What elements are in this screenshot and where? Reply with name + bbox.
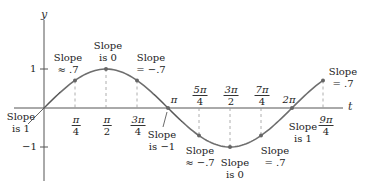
annotation-slope-at-pi: Slopeis −1: [148, 129, 176, 153]
x-tick-3pi-over-2: 3π 2: [224, 84, 239, 107]
x-tick-2pi: 2π: [283, 94, 296, 105]
annotation-slope-at-3pi-4: Slope= −.7: [136, 52, 165, 76]
x-tick-pi: π: [171, 94, 178, 105]
x-axis-label: t: [348, 100, 352, 113]
x-tick-pi-over-2: π 2: [103, 114, 112, 137]
x-tick-pi-over-4: π 4: [72, 114, 81, 137]
x-tick-7pi-over-4: 7π 4: [255, 84, 270, 107]
annotation-slope-at-3pi-2: Slopeis 0: [221, 157, 249, 181]
annotation-slope-at-5pi-4: Slope≈ −.7: [185, 145, 214, 169]
annotation-slope-at-2pi: Slopeis 1: [289, 121, 317, 145]
y-tick-label-minus1: −1: [22, 141, 37, 152]
annotation-slope-at-0: Slopeis 1: [7, 111, 35, 135]
annotation-slope-at-pi-4: Slope≈ .7: [54, 52, 82, 76]
x-tick-9pi-over-4: 9π 4: [319, 114, 334, 137]
annotation-slope-at-9pi-4: Slope= .7: [329, 66, 357, 90]
annotation-slope-at-pi-2: Slopeis 0: [94, 40, 122, 64]
x-tick-3pi-over-4: 3π 4: [131, 114, 146, 137]
x-tick-5pi-over-4: 5π 4: [193, 84, 208, 107]
y-axis-label: y: [41, 8, 47, 21]
y-tick-label-1: 1: [30, 63, 36, 74]
pointer-arrow: [163, 112, 167, 127]
annotation-slope-at-7pi-4: Slope= .7: [261, 145, 289, 169]
